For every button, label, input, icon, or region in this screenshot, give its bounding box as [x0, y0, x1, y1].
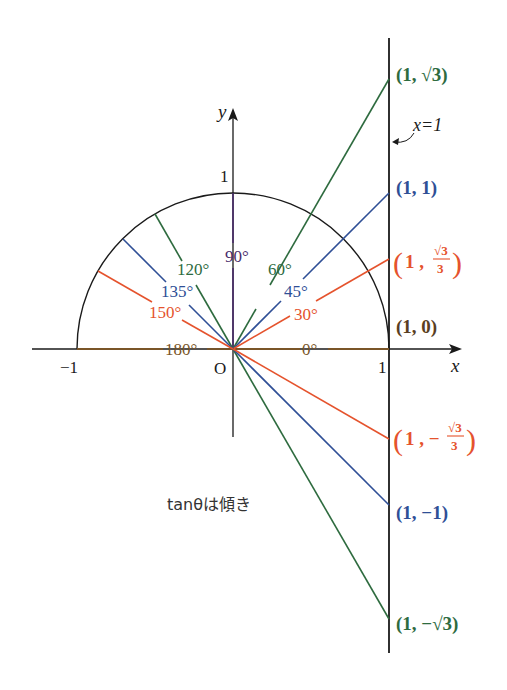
angle-label-45: 45° — [284, 282, 308, 301]
line-x1-label: x=1 — [412, 115, 442, 135]
line-60-lower — [233, 349, 389, 619]
svg-text:√3: √3 — [434, 243, 448, 258]
angle-label-120: 120° — [177, 260, 209, 279]
svg-text:): ) — [466, 423, 476, 457]
point-label-neg-sqrt3: (1, −√3) — [396, 613, 458, 635]
line-30-lower — [233, 349, 389, 439]
svg-text:(: ( — [393, 246, 403, 280]
line-60-upper2 — [270, 79, 389, 285]
caption: tanθは傾き — [167, 495, 251, 514]
tick-y-1: 1 — [220, 167, 229, 186]
svg-text:1 , −: 1 , − — [405, 428, 440, 449]
x-axis-label: x — [450, 355, 460, 376]
angle-label-180: 180° — [165, 340, 197, 359]
ray-150b — [98, 271, 152, 302]
x1-leader-arrowhead-icon — [392, 138, 399, 145]
svg-text:3: 3 — [437, 261, 444, 276]
svg-text:1 ,: 1 , — [405, 251, 424, 272]
line-30-upper2 — [316, 259, 389, 301]
tangent-unit-circle-diagram: 0° 30° 45° 60° 90° 120° 135° 150° 180° y… — [0, 0, 507, 690]
angle-label-150: 150° — [149, 303, 181, 322]
svg-text:3: 3 — [451, 438, 458, 453]
point-label-0: (1, 0) — [396, 316, 437, 338]
point-label-sqrt3: (1, √3) — [396, 64, 448, 86]
angle-label-90: 90° — [225, 247, 249, 266]
line-45-lower — [233, 349, 389, 505]
tick-x-neg1: −1 — [60, 358, 78, 377]
ray-135b — [123, 239, 166, 282]
angle-label-0: 0° — [302, 340, 317, 359]
svg-text:): ) — [452, 246, 462, 280]
point-label-sqrt3-over-3: ( 1 , √3 3 ) — [393, 243, 462, 280]
point-label-1: (1, 1) — [396, 177, 437, 199]
svg-text:(: ( — [393, 423, 403, 457]
y-axis-label: y — [216, 101, 227, 122]
point-label-neg1: (1, −1) — [396, 502, 448, 524]
svg-text:√3: √3 — [448, 420, 462, 435]
point-label-neg-sqrt3-over-3: ( 1 , − √3 3 ) — [393, 420, 476, 457]
ray-120b — [155, 214, 182, 261]
tick-x-1: 1 — [378, 358, 387, 377]
angle-label-30: 30° — [294, 305, 318, 324]
angle-label-135: 135° — [161, 282, 193, 301]
origin-label: O — [214, 359, 226, 378]
angle-label-60: 60° — [268, 260, 292, 279]
